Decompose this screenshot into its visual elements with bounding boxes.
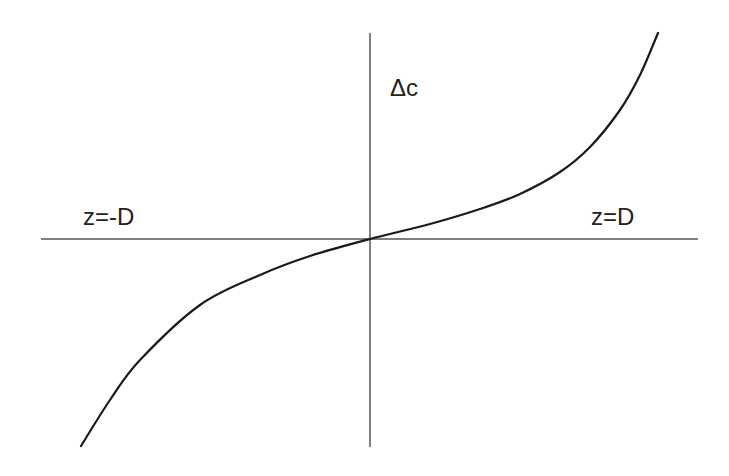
- x-axis-left-label: z=-D: [83, 205, 134, 229]
- y-axis-label: Δc: [390, 76, 418, 100]
- x-axis-right-label: z=D: [591, 205, 634, 229]
- diagram-canvas: [0, 0, 729, 476]
